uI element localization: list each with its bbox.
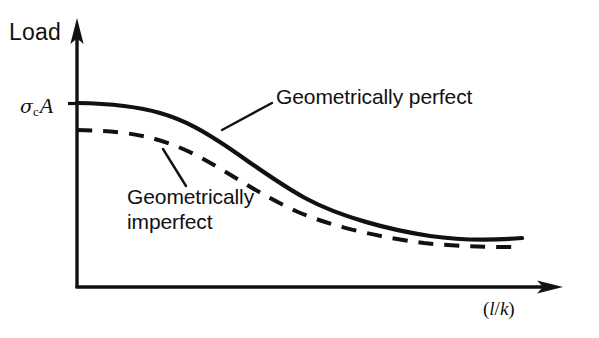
leader-line-perfect — [222, 103, 272, 130]
sigma-subscript-c: c — [33, 104, 39, 119]
sigma-glyph: σ — [20, 95, 33, 117]
x-label-paren-close: ) — [508, 298, 514, 319]
annotation-geometrically-imperfect: Geometrically imperfect — [127, 186, 254, 232]
area-glyph-a: A — [39, 93, 53, 118]
y-axis-tick-label-sigma-c-a: σcA — [20, 95, 53, 118]
annotation-imperfect-line1: Geometrically — [127, 185, 254, 208]
figure-container: Load σcA Geometrically perfect Geometric… — [0, 0, 599, 338]
leader-line-imperfect — [163, 149, 186, 186]
x-axis-label: (l/k) — [483, 299, 515, 318]
annotation-imperfect-line2: imperfect — [127, 211, 254, 232]
y-axis-label: Load — [9, 21, 61, 44]
annotation-geometrically-perfect: Geometrically perfect — [276, 86, 472, 107]
chart-svg — [0, 0, 599, 338]
